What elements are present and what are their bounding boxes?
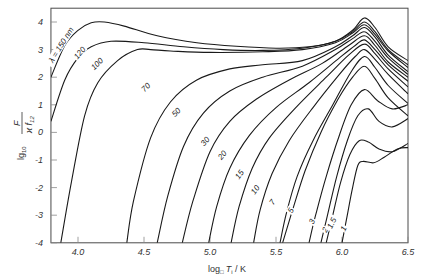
curve-series (51, 18, 408, 243)
curve-label: 50 (169, 105, 183, 119)
curve-lambda-70 (127, 27, 408, 242)
svg-text:log□Ti / K: log□Ti / K (208, 264, 246, 275)
curve-label: 20 (215, 148, 229, 162)
svg-text:30: 30 (199, 135, 212, 148)
y-tick-label: 4 (38, 17, 43, 27)
x-tick-label: 5.5 (270, 247, 284, 257)
y-tick-label: -2 (35, 183, 43, 193)
x-tick-label: 4.5 (138, 247, 152, 257)
y-tick-label: -1 (35, 155, 43, 165)
y-tick-label: 1 (38, 100, 43, 110)
x-tick-label: 5.0 (204, 247, 217, 257)
svg-text:ϰ f12: ϰ f12 (24, 116, 35, 134)
curve-lambda-3 (309, 90, 408, 243)
svg-text:20: 20 (215, 149, 229, 163)
x-tick-label: 6.0 (336, 247, 349, 257)
y-tick-label: -4 (35, 238, 43, 248)
curve-label: 10 (248, 183, 262, 197)
curve-label: λ = 150 nm (45, 22, 78, 67)
curve-label: 3 (307, 217, 318, 227)
x-axis-ticks: 4.04.55.05.56.06.5 (72, 237, 416, 257)
curve-lambda-150 (51, 18, 408, 77)
curve-label: 7 (267, 197, 278, 208)
curve-label: 70 (139, 80, 153, 94)
y-tick-label: -3 (35, 210, 43, 220)
y-tick-label: 3 (38, 45, 43, 55)
svg-text:lg10: lg10 (16, 146, 27, 160)
y-tick-label: 0 (38, 127, 43, 137)
y-axis-title: lg10 F ϰ f12 (12, 112, 35, 160)
y-tick-label: 2 (37, 72, 43, 82)
curve-label: 15 (233, 167, 247, 181)
svg-text:10: 10 (249, 183, 262, 196)
curve-label: 30 (198, 134, 212, 148)
svg-text:70: 70 (140, 81, 153, 94)
curve-label: 100 (88, 55, 106, 73)
curve-labels: λ = 150 nm12010070503020151075321.51 (45, 22, 349, 235)
svg-text:50: 50 (170, 106, 183, 119)
x-tick-label: 4.0 (72, 247, 85, 257)
curve-label: 1 (338, 224, 349, 234)
x-axis-title: log□Ti / K (208, 264, 246, 275)
curve-lambda-10 (254, 50, 408, 243)
curve-lambda-1 (342, 148, 408, 243)
svg-text:15: 15 (233, 168, 246, 181)
plot-border (51, 8, 408, 243)
chart-canvas: 4.04.55.05.56.06.5 43210-1-2-3-4 λ = 150… (0, 0, 424, 278)
curve-lambda-100 (61, 25, 408, 243)
curve-label: 5 (285, 205, 296, 215)
plot-frame (51, 8, 408, 243)
svg-text:F: F (12, 120, 22, 126)
x-tick-label: 6.5 (402, 247, 416, 257)
curve-label: 120 (71, 44, 88, 62)
